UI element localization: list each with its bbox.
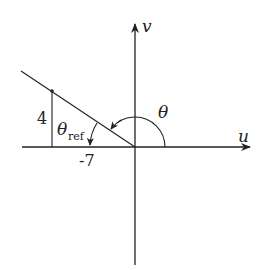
v-axis-label: v: [142, 16, 152, 36]
theta-ref-arc: [90, 123, 97, 145]
adjacent-side-label: -7: [79, 151, 95, 170]
reference-angle-diagram: v u θ 4 -7 θ ref: [0, 0, 265, 270]
theta-arc: [111, 117, 165, 147]
theta-ref-label: θ: [57, 119, 67, 139]
diagram-canvas: v u θ 4 -7 θ ref: [0, 0, 265, 270]
opposite-side-label: 4: [37, 109, 47, 128]
theta-ref-subscript: ref: [68, 130, 85, 143]
u-axis-label: u: [238, 126, 249, 146]
theta-label: θ: [158, 102, 168, 122]
